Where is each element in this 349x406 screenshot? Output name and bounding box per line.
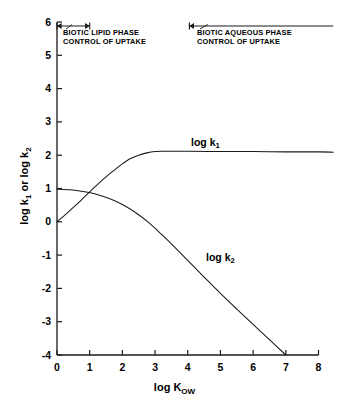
curve-label-k1-sub: 1 — [216, 141, 220, 150]
curve-label-k1-main: log k — [191, 136, 216, 148]
y-axis-title-sub1: 1 — [24, 195, 33, 199]
y-tick-label: 4 — [29, 82, 51, 94]
annotation-arrowhead-left-1 — [189, 23, 194, 29]
x-axis-title-sub: OW — [181, 387, 195, 396]
y-tick-label: 5 — [29, 49, 51, 61]
x-tick-label: 8 — [311, 361, 327, 373]
y-axis-title: log k1 or log k2 — [18, 116, 30, 256]
x-tick-label: 7 — [278, 361, 294, 373]
x-tick-label: 1 — [82, 361, 98, 373]
x-tick-label: 4 — [180, 361, 196, 373]
y-axis-title-part1: log k — [18, 199, 30, 225]
annotation-biotic-lipid-phase-text: BIOTIC LIPID PHASE CONTROL OF UPTAKE — [63, 28, 146, 47]
curve-log-k2 — [57, 189, 286, 355]
y-tick-label: 6 — [29, 16, 51, 28]
chart-figure: 6543210-1-2-3-4 012345678 BIOTIC LIPID P… — [0, 0, 349, 406]
y-axis-title-part2: or log k — [18, 152, 30, 195]
y-axis-ticks — [57, 22, 62, 355]
axis-lines — [57, 22, 319, 355]
y-tick-label: 0 — [29, 215, 51, 227]
y-axis-title-sub2: 2 — [24, 147, 33, 151]
x-axis-title: log KOW — [0, 381, 349, 393]
y-tick-label: 1 — [29, 182, 51, 194]
annotation-lipid-line2: CONTROL OF UPTAKE — [63, 37, 146, 46]
curve-label-k2-main: log k — [206, 251, 231, 263]
annotation-arrowhead-left-0 — [57, 23, 62, 29]
data-series-group — [57, 151, 333, 355]
annotation-lipid-line1: BIOTIC LIPID PHASE — [63, 28, 146, 37]
x-tick-label: 5 — [212, 361, 228, 373]
y-tick-label: -4 — [29, 349, 51, 361]
curve-label-log-k1: log k1 — [191, 136, 220, 148]
x-tick-label: 3 — [147, 361, 163, 373]
x-tick-label: 0 — [49, 361, 65, 373]
curve-label-k2-sub: 2 — [231, 256, 235, 265]
plot-canvas — [0, 0, 349, 406]
annotation-aqueous-line2: CONTROL OF UPTAKE — [197, 37, 292, 46]
x-tick-label: 6 — [245, 361, 261, 373]
curve-log-k1 — [57, 151, 333, 222]
y-tick-label: -3 — [29, 315, 51, 327]
x-axis-ticks — [57, 350, 319, 355]
annotation-aqueous-line1: BIOTIC AQUEOUS PHASE — [197, 28, 292, 37]
y-tick-label: -1 — [29, 249, 51, 261]
y-tick-label: -2 — [29, 282, 51, 294]
x-axis-title-main: log K — [154, 381, 182, 393]
x-tick-label: 2 — [114, 361, 130, 373]
y-tick-label: 3 — [29, 115, 51, 127]
annotation-biotic-aqueous-phase-text: BIOTIC AQUEOUS PHASE CONTROL OF UPTAKE — [197, 28, 292, 47]
curve-label-log-k2: log k2 — [206, 251, 235, 263]
